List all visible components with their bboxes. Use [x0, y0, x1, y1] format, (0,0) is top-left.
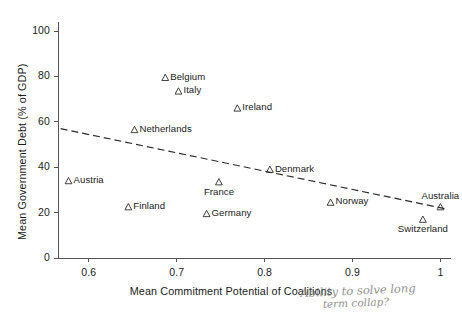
y-tick-label: 40 [6, 160, 50, 172]
y-tick-label: 20 [6, 206, 50, 218]
data-point-marker [65, 177, 72, 183]
point-label-finland: Finland [133, 200, 165, 211]
point-label-italy: Italy [183, 84, 201, 95]
point-label-france: France [204, 186, 234, 197]
data-point-marker [266, 166, 273, 172]
trend-line [61, 129, 448, 210]
data-point-marker [162, 74, 169, 80]
data-point-marker [234, 105, 241, 111]
x-tick-label: 0.9 [328, 266, 378, 278]
x-tick-label: 1 [415, 266, 462, 278]
point-label-austria: Austria [74, 174, 104, 185]
y-axis-title: Mean Government Debt (% of GDP) [16, 63, 28, 240]
x-tick-label: 0.7 [152, 266, 202, 278]
x-tick-label: 0.6 [64, 266, 114, 278]
data-point-marker [175, 88, 182, 94]
y-tick-label: 0 [6, 251, 50, 263]
point-label-norway: Norway [336, 195, 369, 206]
data-point-marker [215, 179, 222, 185]
point-label-denmark: Denmark [275, 163, 314, 174]
y-tick-label: 80 [6, 69, 50, 81]
scatter-chart: 020406080100 0.60.70.80.91 BelgiumItalyI… [0, 0, 462, 313]
point-label-ireland: Ireland [242, 101, 272, 112]
point-label-netherlands: Netherlands [139, 123, 191, 134]
point-label-germany: Germany [212, 207, 252, 218]
point-label-switzerland: Switzerland [398, 223, 448, 234]
y-tick-label: 60 [6, 115, 50, 127]
x-tick-label: 0.8 [240, 266, 290, 278]
data-point-marker [203, 210, 210, 216]
data-point-marker [327, 199, 334, 205]
data-point-marker [419, 216, 426, 222]
data-point-marker [125, 204, 132, 210]
y-tick-label: 100 [6, 24, 50, 36]
data-point-marker [131, 126, 138, 132]
point-label-belgium: Belgium [170, 71, 205, 82]
x-axis-title: Mean Commitment Potential of Coalitions [0, 285, 462, 297]
point-label-australia: Australia [421, 190, 459, 201]
